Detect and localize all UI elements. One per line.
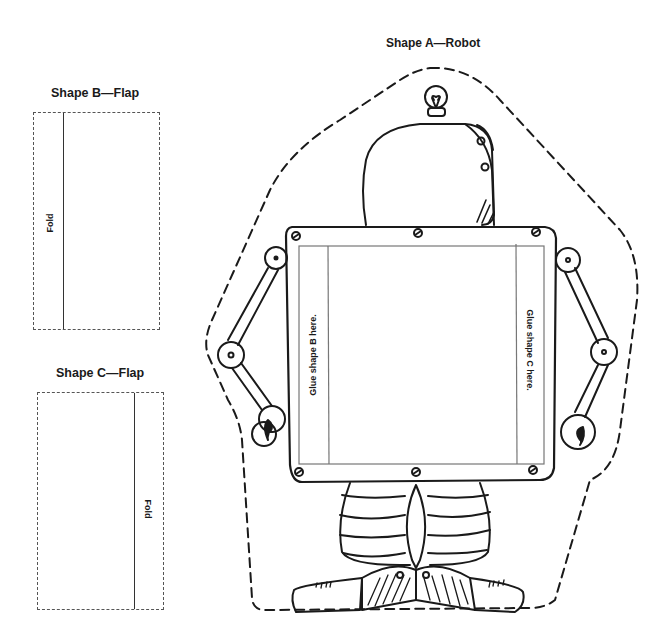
glue-shape-b-label: Glue shape B here.	[308, 314, 318, 396]
glue-panel	[299, 246, 544, 464]
robot-head	[363, 124, 494, 225]
cut-outline	[206, 68, 637, 610]
glue-shape-c-label: Glue shape C here.	[525, 309, 535, 391]
bulb-icon	[425, 86, 447, 116]
robot-illustration	[0, 0, 664, 641]
